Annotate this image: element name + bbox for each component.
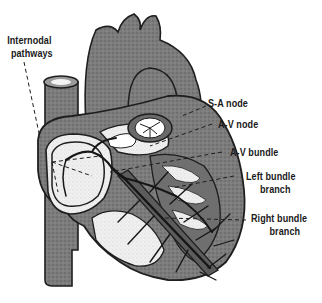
- label-internodal-line2: pathways: [6, 47, 53, 60]
- label-av-bundle: A-V bundle: [230, 146, 278, 159]
- sa-node-structure: [128, 114, 172, 142]
- label-av-node: A-V node: [218, 118, 258, 131]
- label-internodal-line1: Internodal: [6, 34, 53, 47]
- label-left-bundle-line2: branch: [246, 183, 296, 196]
- label-right-bundle-branch: Right bundle branch: [251, 212, 307, 238]
- label-right-bundle-line2: branch: [251, 225, 307, 238]
- heart-conduction-diagram: Internodal pathways S-A node A-V node A-…: [0, 0, 322, 303]
- label-internodal-pathways: Internodal pathways: [6, 34, 53, 60]
- label-left-bundle-line1: Left bundle: [246, 170, 296, 183]
- label-sa-node: S-A node: [208, 97, 248, 110]
- label-right-bundle-line1: Right bundle: [251, 212, 307, 225]
- label-left-bundle-branch: Left bundle branch: [246, 170, 296, 196]
